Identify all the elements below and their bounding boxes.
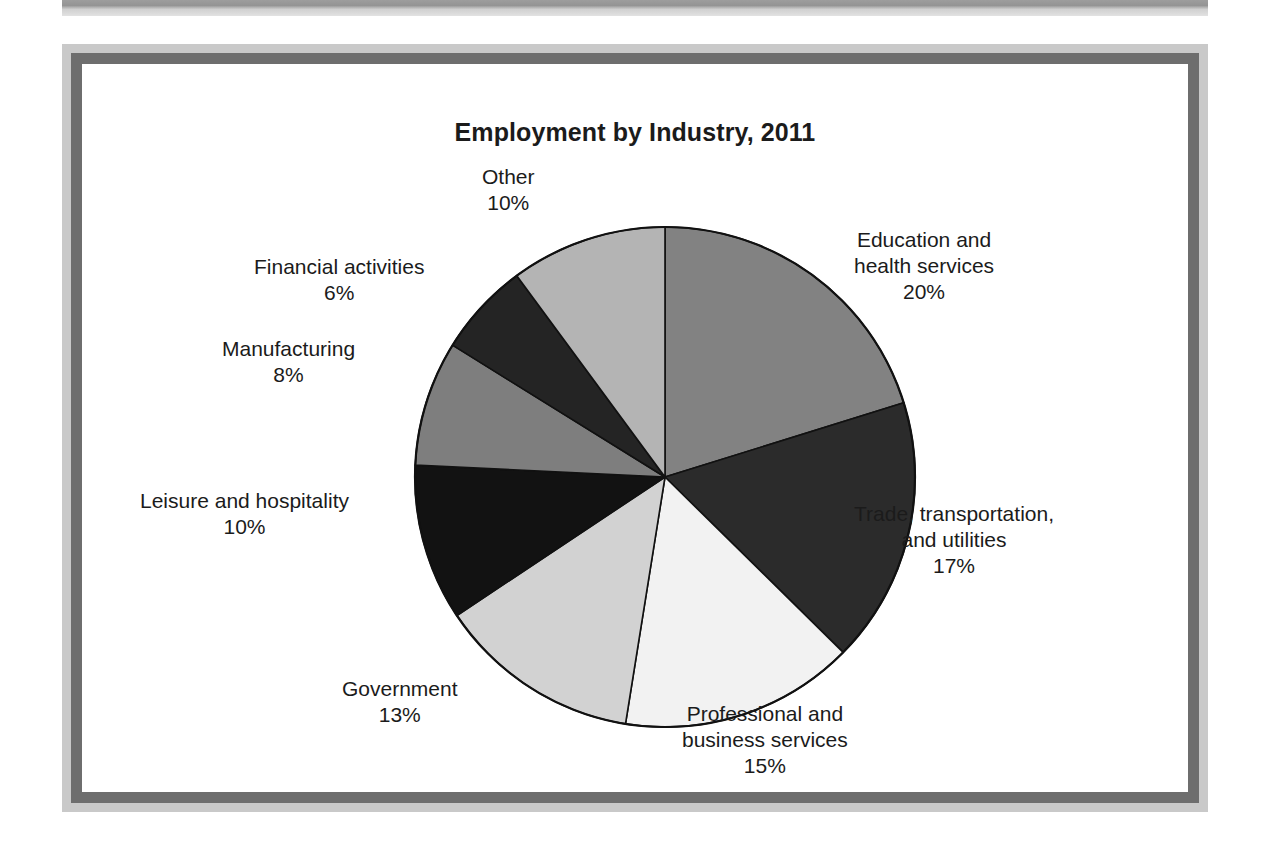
pie-chart-svg — [82, 64, 1186, 788]
slice-label-education-and-health-services: Education and health services 20% — [854, 227, 994, 305]
slice-label-value: 13% — [342, 702, 458, 728]
slice-label-line1: Professional and — [682, 701, 848, 727]
chart-canvas: Employment by Industry, 2011 Education a… — [82, 64, 1188, 792]
slice-label-professional-and-business-services: Professional and business services 15% — [682, 701, 848, 779]
slice-label-line2: and utilities — [854, 527, 1054, 553]
scan-artifact-bar-second — [62, 10, 1208, 16]
slice-label-financial-activities: Financial activities 6% — [254, 254, 424, 306]
slice-label-line1: Other — [482, 164, 535, 190]
slice-label-line1: Manufacturing — [222, 336, 355, 362]
pie-chart — [82, 64, 1188, 792]
figure-outer-frame: Employment by Industry, 2011 Education a… — [62, 44, 1208, 812]
slice-label-value: 17% — [854, 553, 1054, 579]
slice-label-value: 10% — [482, 190, 535, 216]
slice-label-leisure-and-hospitality: Leisure and hospitality 10% — [140, 488, 349, 540]
slice-label-line2: business services — [682, 727, 848, 753]
slice-label-other: Other 10% — [482, 164, 535, 216]
slice-label-line1: Financial activities — [254, 254, 424, 280]
slice-label-line2: health services — [854, 253, 994, 279]
slice-label-value: 20% — [854, 279, 994, 305]
slice-label-government: Government 13% — [342, 676, 458, 728]
slice-label-value: 15% — [682, 753, 848, 779]
figure-inner-frame: Employment by Industry, 2011 Education a… — [71, 53, 1199, 803]
scan-artifact-bar-top — [62, 0, 1208, 10]
slice-label-line1: Trade, transportation, — [854, 501, 1054, 527]
slice-label-manufacturing: Manufacturing 8% — [222, 336, 355, 388]
slice-label-value: 8% — [222, 362, 355, 388]
slice-label-line1: Leisure and hospitality — [140, 488, 349, 514]
slice-label-line1: Education and — [854, 227, 994, 253]
slice-label-value: 6% — [254, 280, 424, 306]
slice-label-trade-transportation-and-utilities: Trade, transportation, and utilities 17% — [854, 501, 1054, 579]
slice-label-value: 10% — [140, 514, 349, 540]
slice-label-line1: Government — [342, 676, 458, 702]
